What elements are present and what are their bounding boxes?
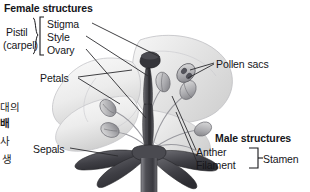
korean-text-line-4: 생 xyxy=(2,154,12,165)
stigma-label: Stigma xyxy=(47,19,79,30)
female-structures-heading: Female structures xyxy=(4,3,93,14)
stamen-bracket xyxy=(249,148,263,168)
style-label: Style xyxy=(47,32,70,43)
anther-label: Anther xyxy=(196,147,226,158)
korean-text-line-1: 대의 xyxy=(0,102,20,113)
stamen-label: Stamen xyxy=(263,154,299,165)
stem-shape xyxy=(141,158,157,192)
filament-label: Filament xyxy=(196,160,235,171)
male-structures-heading: Male structures xyxy=(215,133,291,144)
korean-text-line-2: 배 xyxy=(0,118,10,129)
pollen-sacs-label: Pollen sacs xyxy=(216,59,269,70)
petals-label: Petals xyxy=(40,73,69,84)
korean-text-line-3: 사 xyxy=(0,136,10,147)
pistil-label: Pistil xyxy=(6,27,28,38)
ovary-label: Ovary xyxy=(47,45,75,56)
sepals-label: Sepals xyxy=(33,144,65,155)
pistil-bracket xyxy=(40,17,44,55)
carpel-label: (carpel) xyxy=(3,40,38,51)
petals-shape xyxy=(52,35,232,158)
flower-diagram: Female structures Pistil (carpel) Stigma… xyxy=(0,0,310,192)
